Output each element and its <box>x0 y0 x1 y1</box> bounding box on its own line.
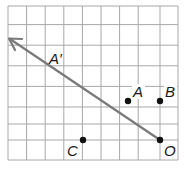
label-C: C <box>67 142 78 159</box>
point-C-dot <box>80 137 86 143</box>
label-B: B <box>165 83 175 100</box>
labels: A B C O A′ <box>48 50 177 159</box>
point-O-dot <box>157 137 163 143</box>
label-A-prime: A′ <box>48 50 63 67</box>
grid <box>8 6 178 160</box>
points <box>80 98 163 143</box>
point-B-dot <box>157 98 163 104</box>
arrowhead-icon <box>9 39 22 51</box>
label-A: A <box>132 83 143 100</box>
label-O: O <box>164 142 176 159</box>
point-A-dot <box>125 98 131 104</box>
grid-diagram: A B C O A′ <box>0 0 188 175</box>
